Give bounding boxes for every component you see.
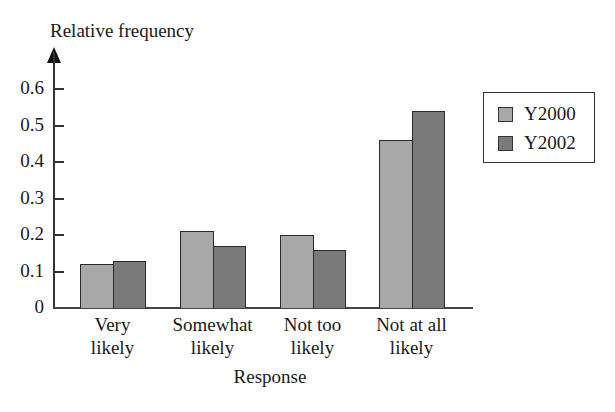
y-tick xyxy=(54,125,64,127)
bar-y2000-2 xyxy=(280,235,314,308)
y-tick-label: 0.3 xyxy=(4,188,44,208)
bar-y2002-0 xyxy=(113,261,147,308)
y-tick-label: 0.5 xyxy=(4,115,44,135)
y-tick xyxy=(54,88,64,90)
y-tick xyxy=(54,161,64,163)
legend-swatch-y2002 xyxy=(498,136,513,151)
legend-label: Y2002 xyxy=(524,132,576,154)
legend-label: Y2000 xyxy=(524,103,576,125)
y-tick xyxy=(54,198,64,200)
bar-y2000-0 xyxy=(80,264,114,308)
y-tick xyxy=(54,271,64,273)
legend: Y2000 Y2002 xyxy=(483,92,595,163)
y-tick-label: 0.4 xyxy=(4,151,44,171)
y-tick xyxy=(54,234,64,236)
legend-item-y2000: Y2000 xyxy=(498,103,576,125)
bar-y2002-1 xyxy=(213,246,247,308)
y-tick-label: 0 xyxy=(4,297,44,317)
x-category-label: Not at alllikely xyxy=(357,313,467,359)
bar-y2000-3 xyxy=(379,140,413,308)
y-tick-label: 0.1 xyxy=(4,261,44,281)
y-tick-label: 0.2 xyxy=(4,224,44,244)
x-axis-label: Response xyxy=(200,366,340,388)
x-category-label: Verylikely xyxy=(58,313,168,359)
legend-swatch-y2000 xyxy=(498,107,513,122)
bar-y2002-3 xyxy=(412,111,446,308)
bar-y2002-2 xyxy=(313,250,347,308)
y-axis-label: Relative frequency xyxy=(50,20,194,42)
x-category-label: Somewhatlikely xyxy=(158,313,268,359)
y-tick-label: 0.6 xyxy=(4,78,44,98)
x-category-label: Not toolikely xyxy=(258,313,368,359)
bar-y2000-1 xyxy=(180,231,214,308)
legend-item-y2002: Y2002 xyxy=(498,132,576,154)
